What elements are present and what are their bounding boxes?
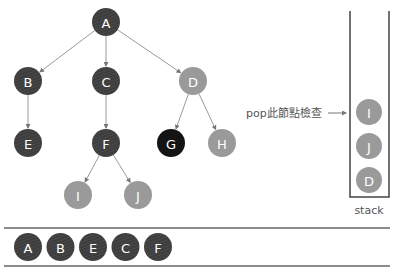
stack-item-j: J bbox=[356, 133, 382, 159]
tree-node-g: G bbox=[157, 129, 185, 157]
tree-node-e: E bbox=[14, 129, 42, 157]
tree-node-b: B bbox=[14, 67, 42, 95]
node-label: F bbox=[102, 137, 109, 152]
edge-f-j bbox=[113, 155, 130, 182]
tree-node-i: I bbox=[64, 181, 92, 209]
tree-node-j: J bbox=[124, 181, 152, 209]
node-label: F bbox=[154, 241, 161, 256]
node-label: C bbox=[101, 75, 110, 90]
stack-label: stack bbox=[354, 204, 384, 217]
edge-a-d bbox=[118, 30, 181, 73]
queue-item-c: C bbox=[112, 233, 140, 261]
tree-node-d: D bbox=[179, 67, 207, 95]
node-label: A bbox=[102, 16, 111, 31]
node-label: I bbox=[367, 106, 371, 121]
node-label: I bbox=[76, 189, 80, 204]
node-label: E bbox=[89, 241, 97, 256]
node-label: D bbox=[364, 174, 374, 189]
stack-items: IJD bbox=[356, 99, 382, 193]
node-label: B bbox=[56, 241, 65, 256]
tree-node-h: H bbox=[208, 129, 236, 157]
output-queue: ABECF bbox=[4, 228, 390, 266]
queue-item-a: A bbox=[14, 233, 42, 261]
node-label: B bbox=[24, 75, 33, 90]
pop-label: pop此節點檢查 bbox=[246, 106, 322, 120]
queue-item-e: E bbox=[79, 233, 107, 261]
node-label: E bbox=[24, 137, 32, 152]
node-label: J bbox=[135, 189, 140, 204]
dfs-diagram: ABCDEFGHIJ pop此節點檢查 IJD stack ABECF bbox=[0, 0, 397, 275]
pop-annotation: pop此節點檢查 bbox=[246, 106, 346, 120]
node-label: D bbox=[188, 75, 198, 90]
stack-container: IJD stack bbox=[350, 11, 389, 217]
stack-item-i: I bbox=[356, 99, 382, 125]
node-label: A bbox=[24, 241, 33, 256]
tree-nodes: ABCDEFGHIJ bbox=[14, 8, 236, 209]
tree-node-c: C bbox=[92, 67, 120, 95]
edge-d-g bbox=[176, 94, 188, 129]
edge-a-b bbox=[40, 30, 95, 72]
stack-item-d: D bbox=[356, 167, 382, 193]
queue-item-f: F bbox=[144, 233, 172, 261]
tree-node-f: F bbox=[92, 129, 120, 157]
edge-f-i bbox=[85, 155, 99, 181]
node-label: C bbox=[121, 241, 130, 256]
node-label: J bbox=[366, 140, 371, 155]
node-label: G bbox=[166, 137, 176, 152]
node-label: H bbox=[217, 137, 227, 152]
queue-item-b: B bbox=[47, 233, 75, 261]
queue-items: ABECF bbox=[14, 233, 172, 261]
tree-node-a: A bbox=[92, 8, 120, 36]
edge-d-h bbox=[199, 94, 216, 130]
tree-edges bbox=[28, 30, 216, 182]
